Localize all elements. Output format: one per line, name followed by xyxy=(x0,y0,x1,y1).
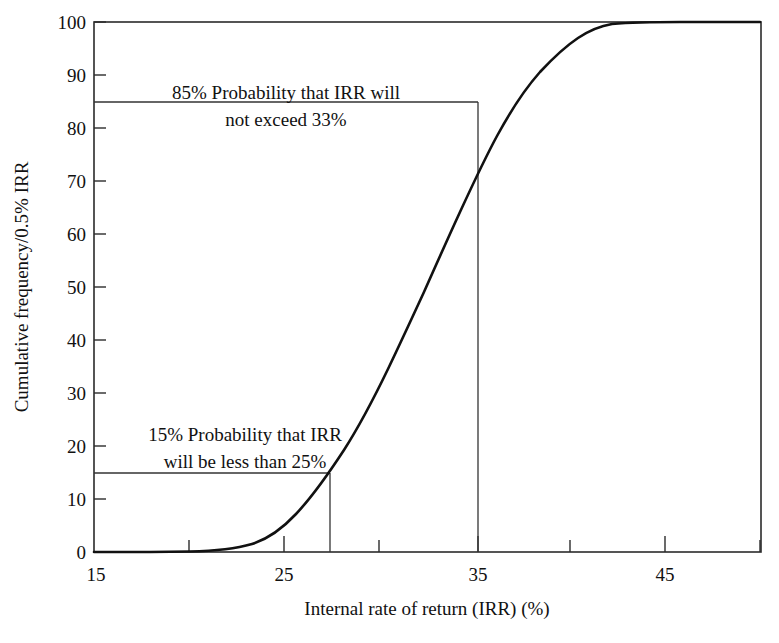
cumulative-frequency-chart: 100 90 80 70 60 50 40 30 20 10 0 15 25 3… xyxy=(0,0,779,643)
y-tick-label-10: 10 xyxy=(67,489,86,510)
x-tick-label-25: 25 xyxy=(275,564,294,585)
upper-annotation-text-line-2: not exceed 33% xyxy=(225,109,347,130)
y-axis-title: Cumulative frequency/0.5% IRR xyxy=(11,161,32,412)
y-tick-label-70: 70 xyxy=(67,171,86,192)
y-tick-label-50: 50 xyxy=(67,277,86,298)
y-tick-label-20: 20 xyxy=(67,436,86,457)
y-tick-label-90: 90 xyxy=(67,65,86,86)
y-tick-label-40: 40 xyxy=(67,330,86,351)
x-tick-label-15: 15 xyxy=(87,564,106,585)
lower-annotation-text-line-2: will be less than 25% xyxy=(164,451,327,472)
y-tick-label-100: 100 xyxy=(58,12,87,33)
chart-container: 100 90 80 70 60 50 40 30 20 10 0 15 25 3… xyxy=(0,0,779,643)
y-tick-label-30: 30 xyxy=(67,383,86,404)
y-tick-label-60: 60 xyxy=(67,224,86,245)
x-tick-label-45: 45 xyxy=(656,564,675,585)
upper-annotation-text-line-1: 85% Probability that IRR will xyxy=(172,82,400,103)
lower-annotation-text-line-1: 15% Probability that IRR xyxy=(148,424,342,445)
y-tick-label-0: 0 xyxy=(77,542,87,563)
x-tick-label-35: 35 xyxy=(469,564,488,585)
x-axis-title: Internal rate of return (IRR) (%) xyxy=(304,598,549,620)
y-tick-label-80: 80 xyxy=(67,118,86,139)
